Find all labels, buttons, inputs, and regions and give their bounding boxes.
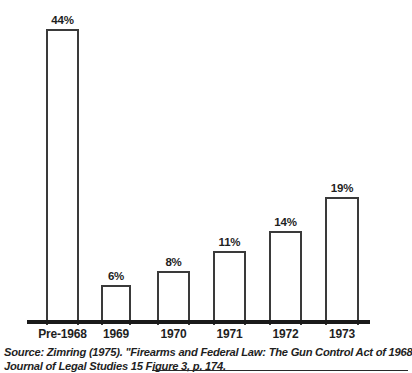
bar-group: 8% xyxy=(157,271,190,325)
x-axis-label-1973: 1973 xyxy=(329,327,355,341)
bottom-divider-rule xyxy=(152,370,408,371)
x-axis-label-1970: 1970 xyxy=(161,327,187,341)
x-axis-label-1972: 1972 xyxy=(273,327,299,341)
bar-group: 19% xyxy=(325,197,359,325)
bar-group: 14% xyxy=(269,231,302,325)
bar-1969 xyxy=(101,285,131,325)
bar-1973 xyxy=(325,197,359,325)
bar-1970 xyxy=(157,271,190,325)
bar-value-label: 44% xyxy=(51,14,73,26)
bar-value-label: 8% xyxy=(165,256,181,268)
bar-1972 xyxy=(269,231,302,325)
bar-pre-1968 xyxy=(46,29,79,325)
source-note-line-1: Source: Zimring (1975). ''Firearms and F… xyxy=(4,346,408,360)
chart-plot-area: 44%6%8%11%14%19% xyxy=(0,0,412,325)
bar-value-label: 6% xyxy=(108,270,124,282)
bar-value-label: 14% xyxy=(274,216,296,228)
figure-container: 44%6%8%11%14%19% Pre-1968196919701971197… xyxy=(0,0,412,373)
x-axis-label-1969: 1969 xyxy=(103,327,129,341)
x-axis-baseline xyxy=(27,320,370,324)
bar-value-label: 11% xyxy=(219,236,241,248)
bar-1971 xyxy=(213,251,246,325)
bar-value-label: 19% xyxy=(331,182,353,194)
bar-group: 44% xyxy=(46,29,79,325)
x-axis-label-pre-1968: Pre-1968 xyxy=(38,327,86,341)
x-axis-category-labels: Pre-196819691970197119721973 xyxy=(0,327,412,345)
x-axis-label-1971: 1971 xyxy=(217,327,243,341)
bar-group: 11% xyxy=(213,251,246,325)
source-note: Source: Zimring (1975). ''Firearms and F… xyxy=(4,346,408,373)
bar-group: 6% xyxy=(101,285,131,325)
